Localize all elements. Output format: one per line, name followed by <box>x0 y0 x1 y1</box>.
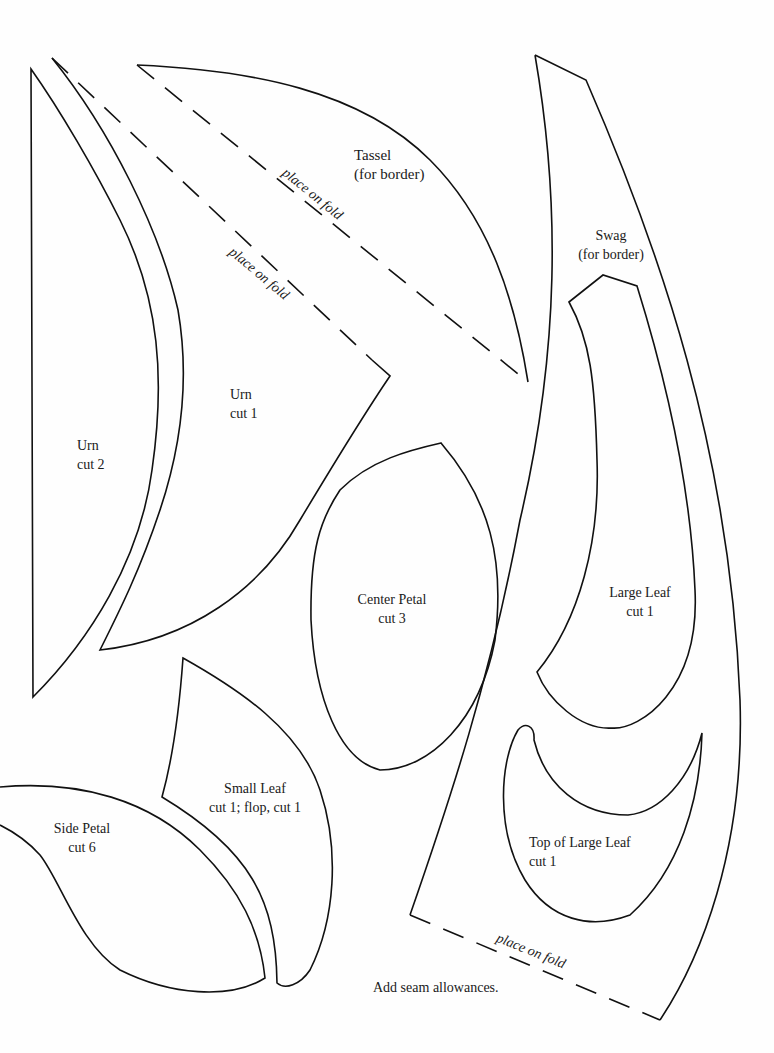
swag-name: Swag <box>566 226 656 245</box>
center-petal-name: Center Petal <box>342 590 442 609</box>
center-petal-note: cut 3 <box>342 609 442 628</box>
small-leaf-label: Small Leaf cut 1; flop, cut 1 <box>200 779 310 817</box>
top-of-large-leaf-note: cut 1 <box>529 852 631 871</box>
small-leaf-name: Small Leaf <box>200 779 310 798</box>
urn-cut1-name: Urn <box>230 385 258 404</box>
urn-cut1-note: cut 1 <box>230 404 258 423</box>
urn-cut2-label: Urn cut 2 <box>77 436 105 474</box>
large-leaf-name: Large Leaf <box>600 583 680 602</box>
side-petal-label: Side Petal cut 6 <box>47 819 117 857</box>
side-petal-note: cut 6 <box>47 838 117 857</box>
small-leaf-note: cut 1; flop, cut 1 <box>200 798 310 817</box>
large-leaf-outline <box>537 275 695 728</box>
tassel-note: (for border) <box>354 165 424 184</box>
large-leaf-note: cut 1 <box>600 602 680 621</box>
urn-cut2-outline <box>31 69 158 697</box>
tassel-name: Tassel <box>354 146 424 165</box>
tassel-fold-line <box>137 65 528 382</box>
large-leaf-label: Large Leaf cut 1 <box>600 583 680 621</box>
urn-cut1-outline <box>52 58 390 650</box>
urn-cut2-note: cut 2 <box>77 455 105 474</box>
footer-note: Add seam allowances. <box>373 978 499 997</box>
top-of-large-leaf-name: Top of Large Leaf <box>529 833 631 852</box>
swag-note: (for border) <box>566 245 656 264</box>
urn-cut2-name: Urn <box>77 436 105 455</box>
top-of-large-leaf-outline <box>503 726 702 922</box>
side-petal-name: Side Petal <box>47 819 117 838</box>
urn-cut1-label: Urn cut 1 <box>230 385 258 423</box>
swag-label: Swag (for border) <box>566 226 656 264</box>
center-petal-label: Center Petal cut 3 <box>342 590 442 628</box>
top-of-large-leaf-label: Top of Large Leaf cut 1 <box>529 833 631 871</box>
pattern-page: Tassel (for border) place on fold place … <box>0 0 774 1053</box>
small-leaf-outline <box>162 658 332 986</box>
tassel-label: Tassel (for border) <box>354 146 424 184</box>
swag-fold-line <box>410 915 660 1020</box>
